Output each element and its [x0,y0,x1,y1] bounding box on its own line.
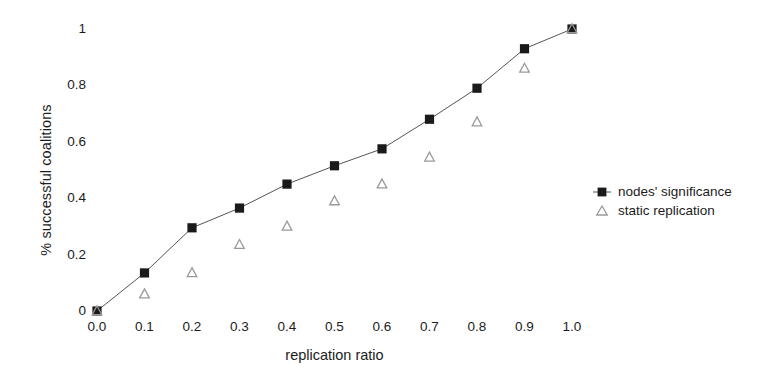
chart-legend: nodes' significancestatic replication [592,182,732,220]
data-point-square [520,44,529,53]
data-point-square [472,84,481,93]
y-axis-tick-label: 0.2 [40,248,86,262]
series-1 [92,24,576,315]
data-point-square [92,306,101,315]
x-axis-tick-label: 0.4 [265,320,309,334]
x-axis-tick-label: 0.6 [360,320,404,334]
x-axis-tick-label: 0.1 [123,320,167,334]
x-axis-tick-label: 0.7 [408,320,452,334]
data-point-square [140,268,149,277]
legend-label: nodes' significance [618,185,732,199]
y-axis-tick-label: 0 [40,304,86,318]
x-axis-tick-label: 0.0 [75,320,119,334]
legend-item: static replication [592,201,732,220]
data-point-square [187,223,196,232]
x-axis-tick-label: 0.3 [218,320,262,334]
y-axis-tick-label: 0.8 [40,78,86,92]
y-axis-tick-label: 0.6 [40,135,86,149]
data-point-square [330,161,339,170]
data-point-square [282,180,291,189]
data-point-square [425,115,434,124]
data-point-triangle [235,240,245,249]
data-point-triangle [140,289,150,298]
data-point-triangle [567,24,577,33]
data-point-triangle [282,221,292,230]
open-triangle-icon [592,204,612,218]
data-point-triangle [425,152,435,161]
data-point-triangle [472,117,482,126]
data-point-triangle [187,268,197,277]
legend-item: nodes' significance [592,182,732,201]
chart-figure: % successful coalitions 00.20.40.60.81 0… [0,0,771,385]
data-point-triangle [92,306,102,315]
legend-label: static replication [618,204,715,218]
data-point-square [377,144,386,153]
y-axis-tick-label: 0.4 [40,191,86,205]
filled-square-line-icon [592,185,612,199]
x-axis-tick-label: 0.9 [503,320,547,334]
x-axis-tick-label: 1.0 [550,320,594,334]
data-point-triangle [377,179,387,188]
x-axis-tick-label: 0.5 [313,320,357,334]
data-point-triangle [330,196,340,205]
data-point-square [567,24,576,33]
data-point-square [235,203,244,212]
series-line [97,29,572,311]
x-axis-tick-label: 0.8 [455,320,499,334]
data-point-triangle [520,63,530,72]
x-axis-tick-label: 0.2 [170,320,214,334]
y-axis-tick-label: 1 [40,22,86,36]
x-axis-title: replication ratio [97,347,572,363]
series-2 [92,24,577,315]
